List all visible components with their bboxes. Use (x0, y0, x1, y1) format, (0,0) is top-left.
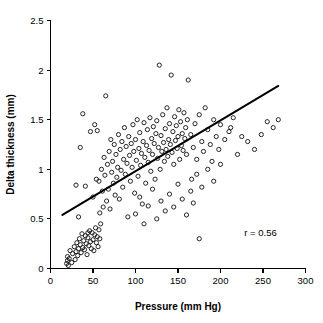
data-point (116, 132, 120, 136)
data-point (99, 222, 103, 226)
data-point (115, 175, 119, 179)
data-point (96, 245, 100, 249)
y-tick-label: 1.5 (30, 114, 43, 125)
data-point (150, 136, 154, 140)
data-point (178, 157, 182, 161)
scatter-plot-figure: 00.511.522.5050100150200250300Pressure (… (0, 0, 323, 323)
data-point (85, 253, 89, 257)
data-point (81, 112, 85, 116)
data-point (184, 152, 188, 156)
data-point (167, 192, 171, 196)
data-point (210, 159, 214, 163)
data-point (151, 125, 155, 129)
data-point (218, 162, 222, 166)
data-point (146, 204, 150, 208)
data-point (140, 202, 144, 206)
data-point (135, 118, 139, 122)
data-point (138, 195, 142, 199)
data-point (217, 147, 221, 151)
annotation-layer: r = 0.56 (244, 227, 276, 238)
data-point (197, 113, 201, 117)
data-point (102, 155, 106, 159)
data-point (134, 158, 138, 162)
data-point (246, 139, 250, 143)
data-point (155, 119, 159, 123)
data-point (160, 149, 164, 153)
data-point (126, 215, 130, 219)
data-point (110, 159, 114, 163)
data-point (203, 106, 207, 110)
y-axis-title: Delta thickness (mm) (5, 94, 16, 195)
y-tick-label: 2.5 (30, 15, 43, 26)
data-point (93, 123, 97, 127)
data-point (142, 121, 146, 125)
data-point (131, 123, 135, 127)
data-point (200, 139, 204, 143)
data-point (252, 147, 256, 151)
data-point (150, 187, 154, 191)
data-point (72, 245, 76, 249)
x-tick-label: 300 (298, 275, 314, 286)
data-point (124, 144, 128, 148)
data-point (168, 142, 172, 146)
data-point (259, 132, 263, 136)
data-point (186, 78, 190, 82)
data-point (109, 137, 113, 141)
data-point (122, 126, 126, 130)
data-point (118, 147, 122, 151)
data-point (208, 142, 212, 146)
data-point (127, 134, 131, 138)
data-point (206, 167, 210, 171)
data-point (128, 179, 132, 183)
data-point (177, 108, 181, 112)
data-point (212, 118, 216, 122)
data-point (231, 116, 235, 120)
data-point (172, 205, 176, 209)
data-point (101, 205, 105, 209)
data-point (193, 122, 197, 126)
data-point (156, 145, 160, 149)
y-tick-label: 0.5 (30, 213, 43, 224)
data-point (271, 126, 275, 130)
x-tick-label: 150 (170, 275, 186, 286)
data-point (113, 193, 117, 197)
data-point (157, 63, 161, 67)
data-point (105, 162, 109, 166)
data-point (110, 170, 114, 174)
data-point (153, 177, 157, 181)
axis-labels-layer: 00.511.522.5050100150200250300Pressure (… (5, 15, 313, 312)
data-point (145, 128, 149, 132)
data-point (130, 165, 134, 169)
data-point (178, 120, 182, 124)
data-point (105, 199, 109, 203)
data-point (154, 131, 158, 135)
data-point (176, 182, 180, 186)
data-point (103, 173, 107, 177)
data-point (223, 137, 227, 141)
data-point (127, 153, 131, 157)
data-point (184, 213, 188, 217)
data-point (180, 131, 184, 135)
data-point (169, 73, 173, 77)
data-point (201, 149, 205, 153)
data-point (76, 215, 80, 219)
data-point (121, 185, 125, 189)
data-point (197, 237, 201, 241)
data-point (159, 133, 163, 137)
data-point (98, 211, 102, 215)
data-point (173, 115, 177, 119)
data-point (240, 134, 244, 138)
y-tick-label: 1 (38, 164, 43, 175)
data-point (176, 134, 180, 138)
data-point (83, 184, 87, 188)
x-tick-label: 100 (128, 275, 144, 286)
data-point (144, 143, 148, 147)
data-point (129, 141, 133, 145)
data-point (137, 146, 141, 150)
data-point (195, 157, 199, 161)
data-point (139, 151, 143, 155)
data-point (171, 130, 175, 134)
data-point (74, 183, 78, 187)
data-point (180, 197, 184, 201)
data-point (161, 140, 165, 144)
